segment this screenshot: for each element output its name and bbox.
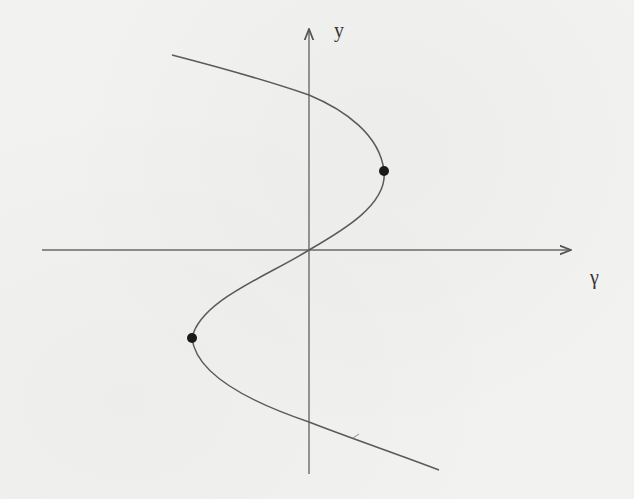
upper-fold-point-marker xyxy=(379,166,389,176)
y-axis-label: y xyxy=(334,20,344,40)
scan-artifact xyxy=(353,434,359,438)
lower-fold-point-marker xyxy=(187,333,197,343)
s-curve xyxy=(172,55,439,470)
gamma-axis-label: γ xyxy=(590,267,599,287)
diagram-canvas: y γ xyxy=(0,0,634,499)
s-curve-diagram xyxy=(0,0,634,499)
